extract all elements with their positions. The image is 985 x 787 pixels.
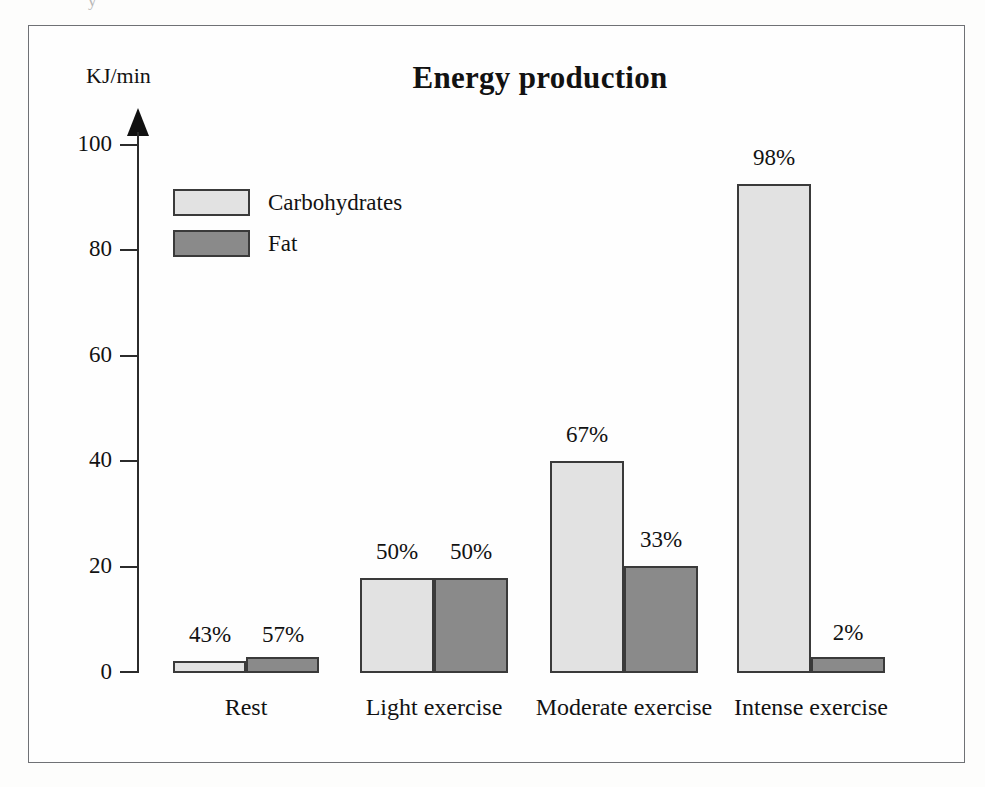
- y-axis-label: KJ/min: [86, 63, 151, 89]
- y-tick-label-40: 40: [52, 447, 112, 473]
- bar-label-moderate-exercise-carbohydrates: 67%: [532, 422, 642, 448]
- y-tick-mark-100: [120, 144, 139, 146]
- bar-label-moderate-exercise-fat: 33%: [606, 527, 716, 553]
- y-axis-line: [137, 132, 139, 673]
- bar-light-exercise-fat: [434, 578, 508, 673]
- bar-rest-fat: [246, 657, 319, 673]
- legend-label-carbohydrates: Carbohydrates: [268, 190, 402, 216]
- bar-light-exercise-carbohydrates: [360, 578, 434, 673]
- bar-moderate-exercise-carbohydrates: [550, 461, 624, 673]
- bar-intense-exercise-carbohydrates: [737, 184, 811, 673]
- y-tick-mark-80: [120, 249, 139, 251]
- x-axis-baseline: [120, 671, 139, 673]
- y-tick-label-20: 20: [52, 553, 112, 579]
- bar-label-intense-exercise-carbohydrates: 98%: [719, 145, 829, 171]
- legend-label-fat: Fat: [268, 231, 297, 257]
- category-label-intense-exercise: Intense exercise: [681, 694, 941, 721]
- y-tick-mark-40: [120, 460, 139, 462]
- y-tick-label-0: 0: [52, 659, 112, 685]
- bar-chart-plot: Energy production KJ/min 100 80 60 40 20…: [0, 0, 985, 787]
- bar-label-rest-fat: 57%: [228, 622, 338, 648]
- legend-swatch-carbohydrates: [173, 189, 250, 216]
- y-tick-label-100: 100: [52, 131, 112, 157]
- bar-label-intense-exercise-fat: 2%: [793, 620, 903, 646]
- y-tick-mark-60: [120, 355, 139, 357]
- bar-intense-exercise-fat: [811, 657, 885, 673]
- y-tick-mark-20: [120, 566, 139, 568]
- y-tick-label-80: 80: [52, 236, 112, 262]
- bar-moderate-exercise-fat: [624, 566, 698, 673]
- chart-title: Energy production: [260, 60, 820, 96]
- y-tick-label-60: 60: [52, 342, 112, 368]
- chart-screenshot: y Energy production KJ/min 100 80 60 40 …: [0, 0, 985, 787]
- bar-label-light-exercise-fat: 50%: [416, 539, 526, 565]
- bar-rest-carbohydrates: [173, 661, 246, 673]
- legend-swatch-fat: [173, 230, 250, 257]
